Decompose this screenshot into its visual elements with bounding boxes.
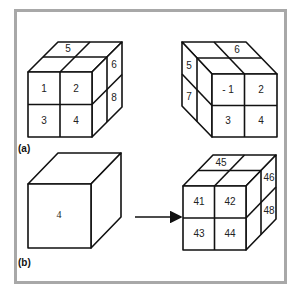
panel-label-a: (a) (18, 143, 30, 154)
cube-b-left: 4 (28, 153, 121, 248)
cube-label: 7 (186, 91, 192, 102)
cube-label: 48 (263, 205, 275, 216)
cube-label: 5 (65, 43, 71, 54)
cube-a-left: 1 2 3 4 5 6 8 (28, 42, 122, 137)
cube-label: 8 (111, 92, 117, 103)
cube-a-right: - 1 2 3 4 6 5 7 (182, 42, 277, 137)
cube-label: 42 (224, 196, 236, 207)
cube-label: 6 (234, 44, 240, 55)
cube-label: 3 (41, 115, 47, 126)
cube-label: 44 (224, 228, 236, 239)
cube-label: 3 (225, 115, 231, 126)
cube-label: 4 (73, 115, 79, 126)
cube-label: 2 (73, 83, 79, 94)
cube-label: 2 (258, 84, 264, 95)
cube-label: 45 (215, 157, 227, 168)
cube-label: 4 (258, 115, 264, 126)
cube-label: 6 (111, 59, 117, 70)
cube-label: 1 (41, 83, 47, 94)
diagram-canvas: 1 2 3 4 5 6 8 - 1 2 3 4 6 5 7 (a) (0, 0, 301, 298)
cube-label: 5 (186, 60, 192, 71)
cube-label: 46 (263, 172, 275, 183)
cube-label: - 1 (222, 84, 234, 95)
cube-b-right: 41 42 43 44 45 46 48 (183, 155, 276, 250)
cube-label: 4 (57, 209, 62, 220)
panel-label-b: (b) (18, 257, 31, 268)
cube-label: 41 (193, 196, 205, 207)
cube-label: 43 (193, 228, 205, 239)
